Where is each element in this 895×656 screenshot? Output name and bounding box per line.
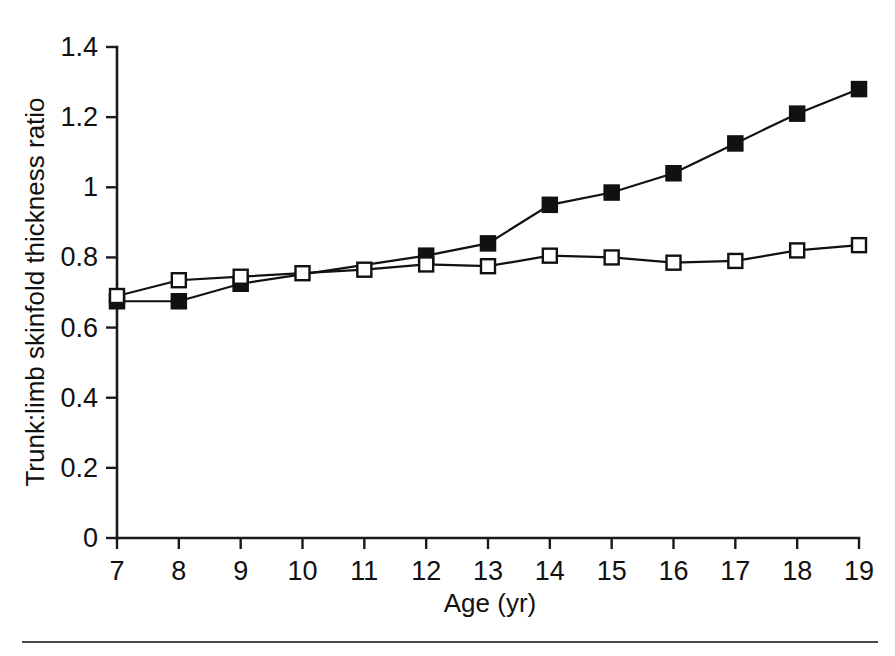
- data-point-open-square-series-15: [605, 250, 619, 264]
- data-point-open-square-series-10: [296, 266, 310, 280]
- x-tick-label-2: 9: [233, 556, 248, 586]
- x-tick-label-8: 15: [597, 556, 627, 586]
- figure-root: 00.20.40.60.811.21.4 7891011121314151617…: [0, 0, 895, 656]
- data-point-open-square-series-18: [790, 243, 804, 257]
- footer-divider: [22, 641, 878, 643]
- data-point-open-square-series-16: [667, 256, 681, 270]
- x-tick-label-6: 13: [473, 556, 503, 586]
- y-tick-label-2: 0.4: [60, 383, 98, 413]
- y-tick-label-5: 1: [83, 172, 98, 202]
- x-tick-label-4: 11: [350, 556, 378, 586]
- data-point-open-square-series-8: [172, 273, 186, 287]
- data-point-open-square-series-12: [419, 257, 433, 271]
- data-point-filled-square-series-19: [852, 82, 867, 97]
- data-point-open-square-series-7: [110, 289, 124, 303]
- data-point-filled-square-series-15: [604, 185, 619, 200]
- x-axis: [117, 538, 859, 549]
- data-point-open-square-series-19: [852, 238, 866, 252]
- data-point-filled-square-series-16: [666, 166, 681, 181]
- y-tick-label-1: 0.2: [60, 453, 98, 483]
- line-chart: 00.20.40.60.811.21.4 7891011121314151617…: [0, 0, 895, 656]
- data-point-filled-square-series-17: [728, 136, 743, 151]
- y-tick-label-7: 1.4: [60, 32, 98, 62]
- y-tick-label-4: 0.8: [60, 242, 98, 272]
- x-tick-labels: 78910111213141516171819: [109, 556, 874, 586]
- x-tick-label-5: 12: [411, 556, 441, 586]
- x-tick-label-11: 18: [782, 556, 812, 586]
- data-point-open-square-series-9: [234, 270, 248, 284]
- y-tick-label-6: 1.2: [60, 102, 98, 132]
- x-tick-label-1: 8: [171, 556, 186, 586]
- data-point-filled-square-series-18: [790, 106, 805, 121]
- x-tick-label-0: 7: [109, 556, 124, 586]
- y-tick-label-3: 0.6: [60, 313, 98, 343]
- x-tick-label-10: 17: [720, 556, 750, 586]
- y-axis-title: Trunk:limb skinfold thickness ratio: [20, 97, 50, 486]
- data-point-filled-square-series-13: [481, 236, 496, 251]
- y-tick-labels: 00.20.40.60.811.21.4: [60, 32, 98, 553]
- y-tick-label-0: 0: [83, 523, 98, 553]
- x-tick-label-12: 19: [844, 556, 874, 586]
- x-tick-label-9: 16: [658, 556, 688, 586]
- x-axis-title: Age (yr): [444, 588, 536, 618]
- data-point-filled-square-series-8: [171, 294, 186, 309]
- data-point-open-square-series-17: [728, 254, 742, 268]
- data-point-open-square-series-14: [543, 249, 557, 263]
- x-tick-label-3: 10: [287, 556, 317, 586]
- data-point-open-square-series-11: [357, 263, 371, 277]
- data-point-filled-square-series-14: [542, 197, 557, 212]
- data-point-open-square-series-13: [481, 259, 495, 273]
- series-group: [110, 82, 867, 309]
- x-tick-label-7: 14: [535, 556, 565, 586]
